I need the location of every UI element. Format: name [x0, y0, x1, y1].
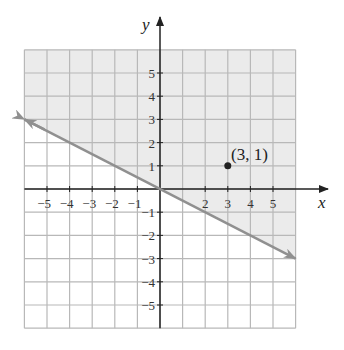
y-tick-label: −3: [141, 252, 155, 267]
x-tick-label: −1: [128, 196, 142, 211]
y-axis-label: y: [140, 15, 150, 34]
y-tick-label: 1: [149, 159, 156, 174]
x-tick-label: −5: [37, 196, 51, 211]
y-tick-label: −2: [141, 228, 155, 243]
x-tick-label: −4: [60, 196, 74, 211]
x-tick-label: 4: [247, 196, 254, 211]
y-tick-label: −5: [141, 298, 155, 313]
y-tick-label: 4: [149, 89, 156, 104]
y-tick-label: 5: [149, 66, 156, 81]
point-label: (3, 1): [231, 145, 268, 164]
x-tick-label: 5: [270, 196, 277, 211]
x-tick-label: 3: [225, 196, 232, 211]
x-tick-label: 2: [202, 196, 209, 211]
y-tick-label: 2: [149, 136, 156, 151]
y-tick-label: −1: [141, 205, 155, 220]
x-axis-label: x: [317, 193, 326, 212]
coordinate-plane: −5−4−3−2−1234554321−1−2−3−4−5 y x (3, 1): [0, 0, 344, 350]
y-tick-label: 3: [149, 112, 156, 127]
x-tick-label: −2: [105, 196, 119, 211]
y-tick-label: −4: [141, 275, 155, 290]
x-tick-label: −3: [82, 196, 96, 211]
